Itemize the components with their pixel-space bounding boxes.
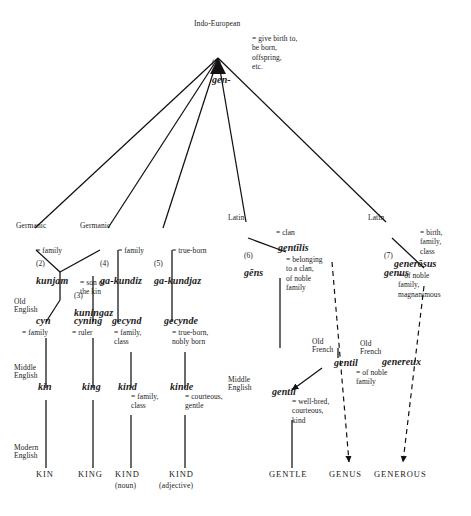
me-gloss-gentil: = well-bred, courteous, kind bbox=[292, 397, 329, 425]
root-gloss: = give birth to, be born, offspring, etc… bbox=[252, 34, 297, 72]
mod-word-generous: GENEROUS bbox=[374, 470, 427, 480]
era-modern-english: Modern English bbox=[14, 444, 38, 461]
kuningaz-gloss: = son of the kin bbox=[80, 278, 105, 297]
root-era-label: Indo-European bbox=[194, 20, 240, 28]
branch-era-latin-1: Latin bbox=[228, 214, 244, 222]
of-word-genereux: genereux bbox=[382, 356, 421, 367]
root-word: gen- bbox=[212, 74, 231, 85]
branch-node-gens: (6) gēns bbox=[228, 226, 263, 298]
me-word-kind: kind bbox=[118, 381, 137, 392]
branch-era-latin-2: Latin bbox=[368, 214, 384, 222]
branch-number-7: (7) bbox=[384, 251, 393, 260]
me-word-gentil: gentil bbox=[272, 386, 296, 397]
mod-word-kind-adjective: KIND bbox=[169, 470, 194, 480]
era-middle-english: Middle English bbox=[14, 364, 38, 381]
branch-gloss-kunjam: = family bbox=[36, 246, 62, 255]
branch-number-5: (5) bbox=[154, 259, 163, 268]
of-word-gentil: gentil bbox=[334, 357, 358, 368]
era-old-french-1: Old French bbox=[312, 338, 333, 355]
branch-word-gakundjaz: ga-kundjaz bbox=[154, 275, 201, 286]
oe-word-cyning: cyning bbox=[74, 315, 102, 326]
branch-number-6: (6) bbox=[244, 251, 253, 260]
oe-word-cyn: cyn bbox=[36, 315, 51, 326]
branch-gloss-gens: = clan bbox=[276, 228, 295, 237]
oe-gloss-cyning: = ruler bbox=[72, 328, 93, 337]
me-gloss-kinde: = courteous, gentle bbox=[185, 392, 223, 411]
me-gloss-kind: = family, class bbox=[131, 392, 159, 411]
etymology-diagram: Indo-European (1) gen- = give birth to, … bbox=[0, 0, 471, 516]
gentilis-gloss: = belonging to a clan, of noble family bbox=[286, 255, 323, 293]
branch-number-2: (2) bbox=[36, 259, 45, 268]
branch-gloss-genus: = birth, family, class bbox=[420, 228, 443, 256]
oe-gloss-gecynd: = family, class bbox=[114, 328, 142, 347]
root-node: (1) gen- bbox=[196, 33, 231, 105]
branch-gloss-gakundjaz: = true-born bbox=[172, 246, 207, 255]
me-word-kinde: kinde bbox=[170, 381, 193, 392]
mod-word-kin: KIN bbox=[36, 470, 54, 480]
of-gloss-gentil: = of noble family bbox=[356, 368, 387, 387]
branch-era-germanic-2: Germanic bbox=[80, 222, 110, 230]
me-word-king: king bbox=[82, 381, 101, 392]
generosus-gloss: = of noble family, magnanimous bbox=[398, 271, 441, 299]
oe-gloss-cyn: = family bbox=[22, 328, 48, 337]
mod-word-king: KING bbox=[78, 470, 103, 480]
oe-word-gecynd: gecynd bbox=[112, 315, 141, 326]
mod-word-genus: GENUS bbox=[329, 470, 362, 480]
oe-gloss-gecynde: = true-born, nobly born bbox=[172, 328, 209, 347]
oe-word-gecynde: gecynde bbox=[164, 315, 198, 326]
node-generosus: generōsus bbox=[394, 258, 437, 269]
mod-word-kind-noun: KIND bbox=[115, 470, 140, 480]
era-middle-english-2: Middle English bbox=[228, 376, 252, 393]
branch-node-gakundjaz: (5) ga-kundjaz bbox=[138, 234, 201, 306]
mod-pos-kind-noun: (noun) bbox=[115, 482, 136, 490]
node-kuningaz: (3) kuningaz bbox=[58, 266, 113, 338]
me-word-kin: kin bbox=[38, 381, 52, 392]
branch-word-gens: gēns bbox=[244, 267, 263, 278]
era-old-french-2: Old French bbox=[360, 340, 381, 357]
root-number: (1) bbox=[212, 58, 221, 67]
era-old-english: Old English bbox=[14, 298, 38, 315]
branch-era-germanic-1: Germanic bbox=[16, 222, 46, 230]
mod-word-gentle: GENTLE bbox=[269, 470, 307, 480]
node-gentilis: gentīlis bbox=[278, 242, 309, 253]
mod-pos-kind-adjective: (adjective) bbox=[159, 482, 193, 490]
